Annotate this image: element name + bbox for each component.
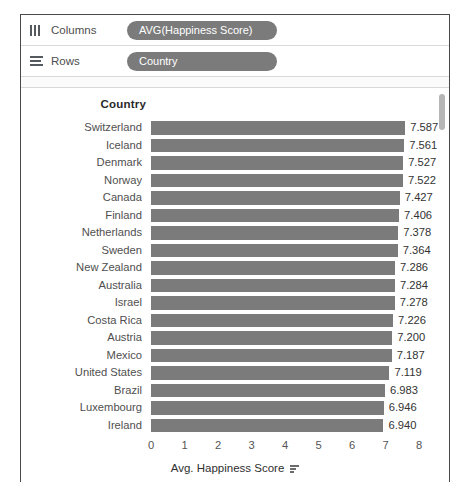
bar-row-label[interactable]: Finland [21, 207, 142, 225]
bar-row-label[interactable]: Ireland [21, 417, 142, 435]
bar-row[interactable]: New Zealand7.286 [21, 259, 449, 277]
bar-value-label: 7.226 [398, 312, 426, 330]
bar-row-label[interactable]: Denmark [21, 154, 142, 172]
bar[interactable] [151, 261, 395, 275]
bar-value-label: 7.527 [408, 154, 436, 172]
bar-row[interactable]: Brazil6.983 [21, 382, 449, 400]
x-axis-tick: 3 [248, 439, 254, 451]
x-axis-tick: 0 [148, 439, 154, 451]
bar-row[interactable]: Austria7.200 [21, 329, 449, 347]
x-axis-title-label: Avg. Happiness Score [171, 462, 285, 474]
bar-value-label: 7.378 [403, 224, 431, 242]
chart-view: Country Switzerland7.587Iceland7.561Denm… [21, 88, 449, 482]
bar-row[interactable]: Norway7.522 [21, 172, 449, 190]
x-axis-tick: 4 [282, 439, 288, 451]
bar-row-label[interactable]: Canada [21, 189, 142, 207]
bar-row-label[interactable]: Iceland [21, 137, 142, 155]
bar[interactable] [151, 174, 403, 188]
bar-value-label: 7.284 [400, 277, 428, 295]
bar-row-label[interactable]: Sweden [21, 242, 142, 260]
bar-value-label: 7.187 [397, 347, 425, 365]
bar-row[interactable]: Australia7.284 [21, 277, 449, 295]
bar[interactable] [151, 226, 398, 240]
bar-value-label: 7.286 [400, 259, 428, 277]
row-header-country: Country [21, 98, 146, 110]
bar[interactable] [151, 121, 405, 135]
rows-shelf-label: Rows [51, 55, 127, 67]
pill-avg-happiness-score[interactable]: AVG(Happiness Score) [127, 21, 277, 40]
x-axis-tick: 5 [315, 439, 321, 451]
bar-row-label[interactable]: Costa Rica [21, 312, 142, 330]
bar-value-label: 7.561 [409, 137, 437, 155]
viz-panel: Columns AVG(Happiness Score) Rows Countr… [20, 14, 450, 482]
bar-row[interactable]: Costa Rica7.226 [21, 312, 449, 330]
bar-value-label: 6.983 [390, 382, 418, 400]
bar-row[interactable]: Netherlands7.378 [21, 224, 449, 242]
bar[interactable] [151, 384, 385, 398]
x-axis: 012345678 [21, 439, 449, 455]
bar-row[interactable]: Israel7.278 [21, 294, 449, 312]
bar-value-label: 7.278 [400, 294, 428, 312]
bar-value-label: 7.522 [408, 172, 436, 190]
x-axis-tick: 2 [215, 439, 221, 451]
bar-value-label: 7.200 [397, 329, 425, 347]
bar-row[interactable]: Finland7.406 [21, 207, 449, 225]
bar-row-label[interactable]: Netherlands [21, 224, 142, 242]
vertical-scrollbar[interactable] [438, 92, 446, 436]
vertical-scrollbar-thumb[interactable] [439, 94, 445, 130]
bar-value-label: 7.406 [404, 207, 432, 225]
bar-row[interactable]: Mexico7.187 [21, 347, 449, 365]
bar-value-label: 7.587 [410, 119, 438, 137]
bar-chart-plot: Switzerland7.587Iceland7.561Denmark7.527… [21, 119, 449, 437]
bar-row[interactable]: Sweden7.364 [21, 242, 449, 260]
bar[interactable] [151, 191, 400, 205]
columns-shelf-label: Columns [51, 24, 127, 36]
bar[interactable] [151, 156, 403, 170]
bar-row[interactable]: United States7.119 [21, 364, 449, 382]
x-axis-tick: 6 [349, 439, 355, 451]
bar[interactable] [151, 244, 398, 258]
bar-value-label: 7.364 [403, 242, 431, 260]
bar-row[interactable]: Canada7.427 [21, 189, 449, 207]
bar-row[interactable]: Ireland6.940 [21, 417, 449, 435]
bar-row-label[interactable]: Brazil [21, 382, 142, 400]
bar-row-label[interactable]: United States [21, 364, 142, 382]
bar[interactable] [151, 401, 384, 415]
rows-shelf[interactable]: Rows Country [21, 46, 449, 77]
bar-row[interactable]: Denmark7.527 [21, 154, 449, 172]
bar[interactable] [151, 331, 392, 345]
bar-row[interactable]: Switzerland7.587 [21, 119, 449, 137]
bar[interactable] [151, 279, 395, 293]
bar-value-label: 6.940 [388, 417, 416, 435]
bar-row-label[interactable]: New Zealand [21, 259, 142, 277]
bar[interactable] [151, 419, 383, 433]
x-axis-tick: 7 [382, 439, 388, 451]
bar-row-label[interactable]: Switzerland [21, 119, 142, 137]
bar-value-label: 7.119 [394, 364, 421, 382]
bar-row-label[interactable]: Israel [21, 294, 142, 312]
x-axis-tick: 8 [416, 439, 422, 451]
bar[interactable] [151, 366, 389, 380]
shelf-divider [21, 77, 449, 88]
bar[interactable] [151, 314, 393, 328]
bar-value-label: 7.427 [405, 189, 433, 207]
pill-country[interactable]: Country [127, 52, 277, 71]
bar-row[interactable]: Iceland7.561 [21, 137, 449, 155]
bar-value-label: 6.946 [389, 399, 417, 417]
bar-row[interactable]: Luxembourg6.946 [21, 399, 449, 417]
bar[interactable] [151, 209, 399, 223]
bar-row-label[interactable]: Australia [21, 277, 142, 295]
bar-row-label[interactable]: Austria [21, 329, 142, 347]
bar-row-label[interactable]: Luxembourg [21, 399, 142, 417]
x-axis-title: Avg. Happiness Score [21, 462, 449, 474]
x-axis-tick: 1 [181, 439, 187, 451]
rows-icon [30, 56, 44, 66]
bar[interactable] [151, 139, 404, 153]
bar[interactable] [151, 349, 392, 363]
columns-shelf[interactable]: Columns AVG(Happiness Score) [21, 15, 449, 46]
bar-row-label[interactable]: Mexico [21, 347, 142, 365]
sort-descending-icon[interactable] [290, 465, 299, 473]
columns-icon [30, 25, 44, 36]
bar-row-label[interactable]: Norway [21, 172, 142, 190]
bar[interactable] [151, 296, 395, 310]
